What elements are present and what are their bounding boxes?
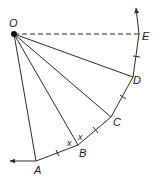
line-od <box>14 34 133 77</box>
angle-label-x2: x <box>77 132 83 142</box>
label-b: B <box>79 147 86 159</box>
label-o: O <box>9 17 18 29</box>
label-a: A <box>33 164 41 176</box>
label-c: C <box>113 116 121 128</box>
fan-diagram: O A B C D E x x <box>0 0 159 180</box>
label-d: D <box>133 74 141 86</box>
angle-label-x1: x <box>66 138 72 148</box>
line-oc <box>14 34 111 117</box>
tick-de <box>133 56 140 57</box>
curve-path <box>36 8 139 161</box>
label-e: E <box>142 30 150 42</box>
point-o-dot <box>11 31 17 37</box>
